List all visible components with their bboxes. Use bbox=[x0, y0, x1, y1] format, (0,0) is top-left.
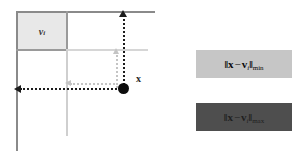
vertical-gridline bbox=[66, 50, 68, 136]
formula-max-rhs-index: i bbox=[247, 117, 249, 125]
figure-root: vi x ‖x−vi‖min ‖x−vi‖max bbox=[0, 0, 305, 159]
cell-right-border-line bbox=[66, 11, 68, 51]
formula-max-rhs: v bbox=[241, 111, 247, 123]
query-point-label: x bbox=[136, 73, 141, 84]
cell-label-vi-index: i bbox=[43, 29, 45, 37]
formula-panel: ‖x−vi‖min ‖x−vi‖max bbox=[188, 0, 305, 159]
formula-max-subscript: max bbox=[252, 117, 264, 125]
cell-label-vi: vi bbox=[18, 13, 66, 49]
max-distance-left-arrowhead-icon bbox=[14, 85, 21, 93]
max-distance-vertical-dotted-line bbox=[123, 14, 125, 89]
cell-bottom-border-line bbox=[16, 49, 68, 51]
min-distance-horizontal-dotted-line bbox=[70, 83, 118, 85]
formula-box-max: ‖x−vi‖max bbox=[196, 103, 292, 131]
formula-max-operator: − bbox=[233, 111, 241, 123]
formula-box-min: ‖x−vi‖min bbox=[196, 50, 292, 78]
min-distance-left-arrowhead-icon bbox=[65, 80, 71, 86]
formula-min-subscript: min bbox=[253, 64, 264, 72]
grid-diagram: vi x bbox=[0, 0, 165, 159]
formula-min-expression: ‖x−vi‖min bbox=[224, 59, 263, 70]
horizontal-gridline bbox=[66, 49, 148, 51]
max-distance-horizontal-dotted-line bbox=[20, 88, 124, 90]
query-point-marker bbox=[118, 83, 129, 94]
max-distance-up-arrowhead-icon bbox=[119, 10, 127, 17]
formula-min-rhs-index: i bbox=[247, 64, 249, 72]
min-distance-up-arrowhead-icon bbox=[113, 48, 119, 54]
formula-min-operator: − bbox=[233, 58, 241, 70]
formula-max-expression: ‖x−vi‖max bbox=[224, 112, 264, 123]
